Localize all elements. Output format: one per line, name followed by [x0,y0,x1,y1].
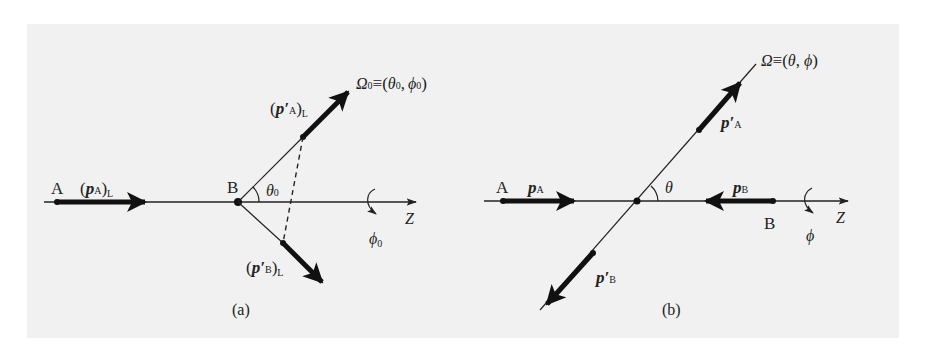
particle-a-dot-b [500,198,506,204]
caption-a: (a) [232,301,250,319]
particle-a-dot [54,199,60,205]
label-b-particle-b: B [227,178,238,197]
collision-center-dot [634,198,641,205]
label-a-particle-a: A [51,179,64,198]
label-z-axis-a: Z [405,210,415,227]
label-b-particle-a: A [496,178,509,197]
label-phi: ϕ [806,227,814,245]
label-omega-direction: Ω≡(θ,ϕ) [761,51,818,70]
caption-b: (b) [662,301,681,319]
outgoing-b-dot-b [590,250,596,256]
label-theta: θ [665,179,673,196]
particle-b-dot-b [770,198,776,204]
label-b-particle-b: B [764,214,775,233]
outgoing-b-dot [280,240,286,246]
label-z-axis-b: Z [836,209,846,226]
outgoing-a-dot-b [696,127,702,133]
figure-background [27,24,899,338]
scattering-figure: A (pA)L B θ0 (p′A)L (p′B)L Ω0≡(θ0,ϕ0) Z … [0,0,928,350]
